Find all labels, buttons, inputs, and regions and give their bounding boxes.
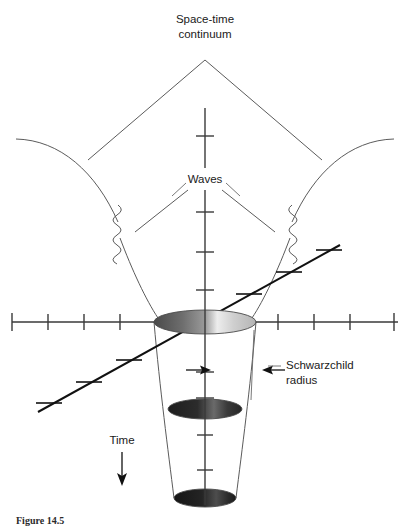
time-label: Time bbox=[109, 434, 134, 446]
figure-caption: Figure 14.5 bbox=[16, 515, 64, 526]
schwarzchild-label-line1: Schwarzchild bbox=[286, 359, 354, 371]
spacetime-funnel-diagram: Space-time continuum Waves Schwarzchild … bbox=[0, 0, 410, 527]
spacetime-title-line1: Space-time bbox=[176, 13, 234, 25]
schwarzchild-label-line2: radius bbox=[286, 374, 318, 386]
figure-container: Space-time continuum Waves Schwarzchild … bbox=[0, 0, 410, 527]
waves-label: Waves bbox=[188, 173, 223, 185]
spacetime-title-line2: continuum bbox=[178, 28, 231, 40]
